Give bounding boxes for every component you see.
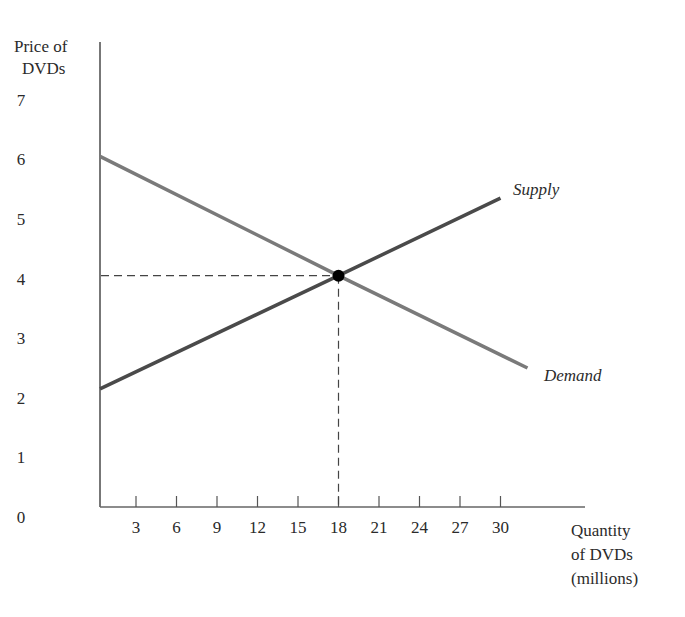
y-tick-label: 4 [6, 270, 36, 290]
x-tick-label: 24 [405, 518, 435, 538]
x-axis-title-line3: (millions) [571, 569, 638, 589]
x-tick-label: 27 [445, 518, 475, 538]
demand-label: Demand [544, 366, 602, 386]
y-tick-label: 6 [6, 150, 36, 170]
y-tick-label: 1 [6, 448, 36, 468]
y-tick-label: 2 [6, 389, 36, 409]
y-tick-label: 3 [6, 329, 36, 349]
x-tick-label: 18 [324, 518, 354, 538]
x-axis-title-line1: Quantity [571, 521, 631, 541]
y-tick-label: 7 [6, 91, 36, 111]
x-tick-label: 12 [243, 518, 273, 538]
supply-curve [100, 198, 501, 389]
x-tick-label: 3 [121, 518, 151, 538]
x-tick-label: 15 [283, 518, 313, 538]
supply-label: Supply [513, 180, 559, 200]
x-tick-label: 6 [162, 518, 192, 538]
demand-curve [100, 156, 528, 368]
x-tick-label: 9 [202, 518, 232, 538]
equilibrium-point [333, 270, 345, 282]
x-tick-label: 21 [364, 518, 394, 538]
x-tick-label: 30 [486, 518, 516, 538]
y-axis-title-line2: DVDs [22, 59, 65, 79]
y-tick-label: 5 [6, 210, 36, 230]
x-tick-marks [136, 496, 501, 507]
y-axis-title-line1: Price of [14, 37, 67, 57]
x-axis-title-line2: of DVDs [571, 545, 633, 565]
y-tick-label: 0 [6, 508, 36, 528]
